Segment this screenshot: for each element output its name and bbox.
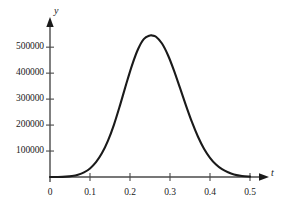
x-axis-tick-label: 0.3	[164, 188, 176, 198]
axis-group	[46, 17, 269, 182]
data-curve	[50, 35, 250, 177]
x-axis-arrow-icon	[259, 173, 269, 180]
x-axis-tick-label: 0.2	[124, 188, 136, 198]
x-axis-tick-label: 0.5	[244, 188, 256, 198]
y-axis-tick-label: 200000	[4, 120, 44, 130]
y-axis-tick-label: 400000	[4, 68, 44, 78]
chart-figure: 100000200000300000400000500000 00.10.20.…	[0, 0, 281, 203]
x-axis-tick-label: 0.4	[204, 188, 216, 198]
y-axis-tick-label: 500000	[4, 42, 44, 52]
x-axis-tick-label: 0.1	[84, 188, 96, 198]
y-axis-tick-label: 300000	[4, 94, 44, 104]
x-axis-name-label: t	[271, 168, 274, 178]
y-axis-tick-label: 100000	[4, 146, 44, 156]
y-axis-name-label: y	[54, 6, 58, 16]
y-axis-arrow-icon	[46, 17, 53, 27]
x-axis-tick-label: 0	[48, 188, 53, 198]
